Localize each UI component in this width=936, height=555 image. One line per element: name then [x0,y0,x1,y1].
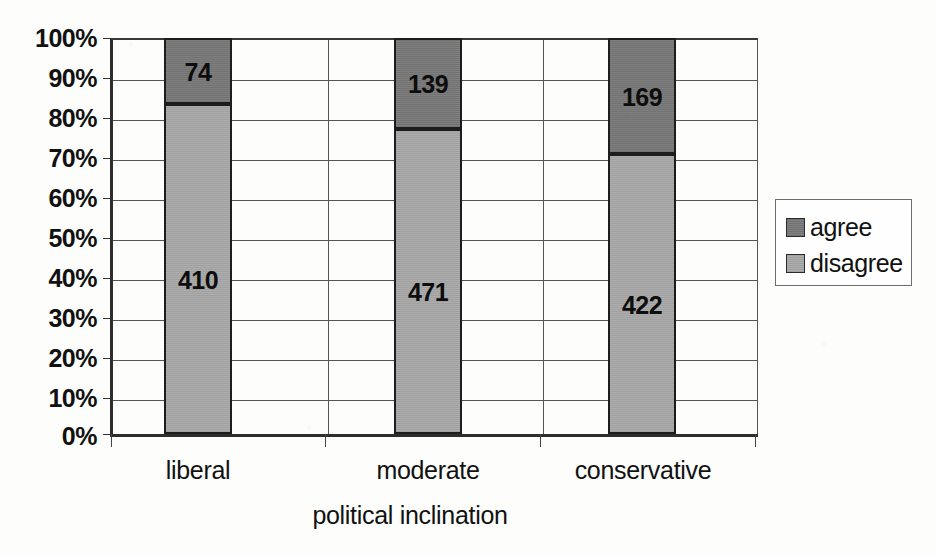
bar-liberal[interactable]: 74 410 [164,38,232,434]
y-axis-label-60: 60% [5,186,97,211]
bar-segment-disagree-liberal[interactable]: 410 [164,104,232,434]
y-axis-label-90: 90% [5,66,97,91]
x-axis-category-conservative: conservative [545,458,741,483]
bar-segment-agree-liberal[interactable]: 74 [164,38,232,104]
stacked-bar-chart: 100% 90% 80% 70% 60% 50% 40% 30% 20% 10%… [0,0,936,555]
bar-value-label: 169 [622,85,662,110]
bar-value-label: 74 [185,60,212,85]
y-axis-label-40: 40% [5,266,97,291]
x-axis-title: political inclination [150,503,670,528]
legend-label-agree: agree [810,215,872,240]
bar-segment-agree-moderate[interactable]: 139 [394,38,462,129]
x-axis-category-liberal: liberal [108,458,288,483]
bar-value-label: 139 [408,72,448,97]
bar-moderate[interactable]: 139 471 [394,38,462,434]
bar-segment-disagree-conservative[interactable]: 422 [608,154,676,434]
y-axis-label-50: 50% [5,226,97,251]
bar-segment-disagree-moderate[interactable]: 471 [394,129,462,434]
category-separator [543,40,544,436]
y-axis-label-80: 80% [5,106,97,131]
legend-item-disagree[interactable]: disagree [786,245,911,281]
bar-value-label: 471 [408,280,448,305]
x-axis-baseline [110,434,758,437]
y-axis-label-100: 100% [5,26,97,51]
category-separator [328,40,329,436]
y-axis-label-10: 10% [5,386,97,411]
bar-value-label: 410 [178,268,218,293]
y-axis-label-0: 0% [5,424,97,449]
x-axis-tick [540,434,541,447]
x-axis-category-moderate: moderate [338,458,518,483]
x-axis-tick [755,434,756,447]
legend-swatch-disagree-icon [786,254,805,273]
legend-item-agree[interactable]: agree [786,209,911,245]
legend-label-disagree: disagree [810,251,903,276]
y-axis-label-70: 70% [5,146,97,171]
y-axis-label-20: 20% [5,346,97,371]
x-axis-tick [111,434,112,447]
bar-segment-agree-conservative[interactable]: 169 [608,38,676,154]
legend: agree disagree [775,199,912,286]
x-axis-tick [325,434,326,447]
bar-value-label: 422 [622,293,662,318]
bar-conservative[interactable]: 169 422 [608,38,676,434]
y-axis-label-30: 30% [5,306,97,331]
category-separator [757,40,758,436]
legend-swatch-agree-icon [786,218,805,237]
